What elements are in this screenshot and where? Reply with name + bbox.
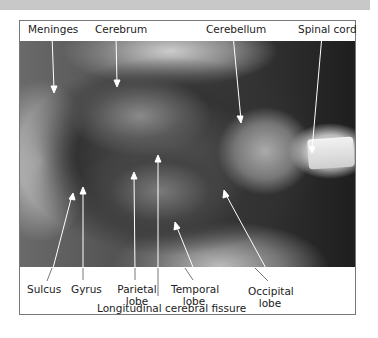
label-spinal-cord: Spinal cord <box>298 23 357 35</box>
label-parietal-line1: Parietal <box>117 283 157 295</box>
label-gyrus: Gyrus <box>71 283 102 295</box>
label-occipital-line1: Occipital <box>248 285 292 297</box>
label-cerebellum: Cerebellum <box>206 23 266 35</box>
label-occipital-line2: lobe <box>248 297 292 309</box>
brain-photograph <box>20 41 355 267</box>
label-sulcus: Sulcus <box>27 283 61 295</box>
label-longitudinal-fissure: Longitudinal cerebral fissure <box>97 302 246 314</box>
label-occipital-lobe: Occipital lobe <box>248 285 292 309</box>
label-cerebrum: Cerebrum <box>95 23 147 35</box>
label-temporal-line1: Temporal <box>171 283 217 295</box>
spinal-cord-specimen <box>307 136 355 169</box>
header-band <box>0 0 370 10</box>
label-meninges: Meninges <box>28 23 78 35</box>
